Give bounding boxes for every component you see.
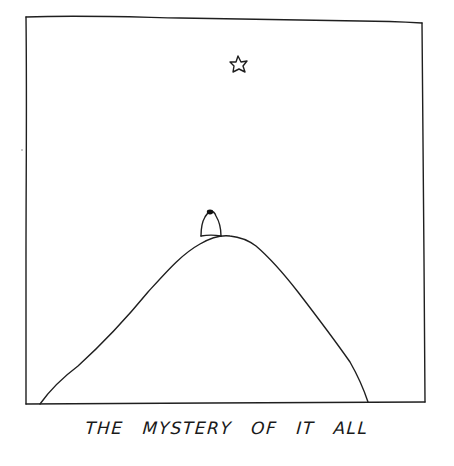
caption-word: THE [85, 418, 125, 438]
star-icon [230, 56, 247, 72]
figure-base [201, 235, 221, 236]
caption-word: ALL [333, 418, 369, 438]
ink-dot [21, 149, 23, 151]
caption: THE MYSTERY OF IT ALL [0, 418, 454, 438]
figure-head [207, 210, 213, 215]
mountain [40, 236, 368, 404]
caption-word: IT [296, 418, 316, 438]
frame-top-edge [26, 16, 422, 23]
caption-word: OF [251, 418, 279, 438]
frame-right-edge [422, 23, 425, 402]
cartoon-illustration [0, 0, 454, 466]
frame-bottom-edge [26, 402, 425, 404]
caption-word: MYSTERY [142, 418, 233, 438]
figure-body [201, 211, 221, 236]
